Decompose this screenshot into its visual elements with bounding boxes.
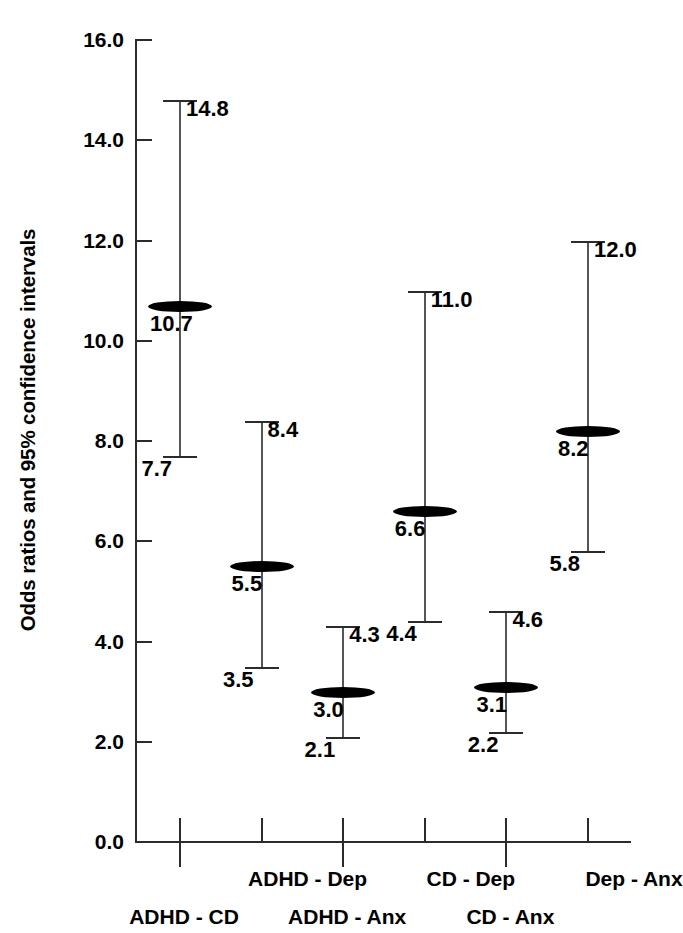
odds-ratio-label: 5.5 xyxy=(232,573,263,595)
x-tick-mark xyxy=(261,818,263,843)
ci-lower-label: 4.4 xyxy=(386,623,417,645)
ci-upper-label: 4.6 xyxy=(512,609,543,631)
x-category-label: Dep - Anx xyxy=(585,868,682,889)
confidence-interval-line xyxy=(261,421,263,667)
y-tick-label: 14.0 xyxy=(83,128,124,152)
ci-upper-label: 4.3 xyxy=(349,624,380,646)
x-tick-mark-lower xyxy=(179,841,181,867)
ci-lower-label: 2.1 xyxy=(305,739,336,761)
ci-lower-label: 2.2 xyxy=(468,734,499,756)
y-tick-label: 16.0 xyxy=(83,28,124,52)
y-axis-title: Odds ratios and 95% confidence intervals xyxy=(0,0,56,860)
x-tick-mark-lower xyxy=(342,841,344,867)
y-tick-label: 6.0 xyxy=(95,529,124,553)
y-tick-mark xyxy=(135,741,152,743)
odds-ratio-label: 10.7 xyxy=(150,313,193,335)
plot-area: 16.014.012.010.08.06.04.02.00.0 14.87.71… xyxy=(136,40,641,842)
ci-lower-label: 5.8 xyxy=(549,553,580,575)
y-tick-mark xyxy=(135,39,152,41)
x-tick-mark xyxy=(587,818,589,843)
y-tick-label: 4.0 xyxy=(95,630,124,654)
x-tick-mark xyxy=(342,818,344,843)
x-tick-mark xyxy=(424,818,426,843)
ci-upper-label: 11.0 xyxy=(431,289,473,311)
x-category-label: CD - Anx xyxy=(466,906,554,927)
x-tick-mark xyxy=(179,818,181,843)
odds-ratio-label: 3.0 xyxy=(313,699,344,721)
y-axis-title-text: Odds ratios and 95% confidence intervals xyxy=(16,229,40,632)
y-tick-mark xyxy=(135,641,152,643)
odds-ratio-label: 8.2 xyxy=(558,438,589,460)
y-tick-mark xyxy=(135,240,152,242)
confidence-interval-line xyxy=(587,241,589,552)
y-tick-label: 10.0 xyxy=(83,329,124,353)
y-tick-label: 2.0 xyxy=(95,730,124,754)
x-tick-mark-lower xyxy=(505,841,507,867)
odds-ratio-label: 3.1 xyxy=(476,694,507,716)
ci-upper-label: 12.0 xyxy=(594,239,637,261)
y-tick-mark xyxy=(135,139,152,141)
y-tick-mark xyxy=(135,340,152,342)
x-category-label: CD - Dep xyxy=(426,868,515,889)
x-category-label: ADHD - Anx xyxy=(288,906,406,927)
x-tick-mark xyxy=(505,818,507,843)
ci-upper-label: 14.8 xyxy=(186,98,229,120)
ci-lower-label: 3.5 xyxy=(223,669,254,691)
y-tick-mark xyxy=(135,540,152,542)
y-tick-label: 12.0 xyxy=(83,229,124,253)
odds-ratio-label: 6.6 xyxy=(395,518,426,540)
y-tick-label: 8.0 xyxy=(95,429,124,453)
y-tick-label: 0.0 xyxy=(95,830,124,854)
y-tick-mark xyxy=(135,440,152,442)
ci-upper-label: 8.4 xyxy=(268,419,299,441)
x-axis-line xyxy=(135,841,631,843)
ci-lower-label: 7.7 xyxy=(141,458,172,480)
x-category-label: ADHD - Dep xyxy=(248,868,367,889)
confidence-interval-line xyxy=(179,100,181,456)
y-tick-mark xyxy=(135,841,152,843)
confidence-interval-line xyxy=(424,291,426,622)
x-category-label: ADHD - CD xyxy=(129,906,239,927)
